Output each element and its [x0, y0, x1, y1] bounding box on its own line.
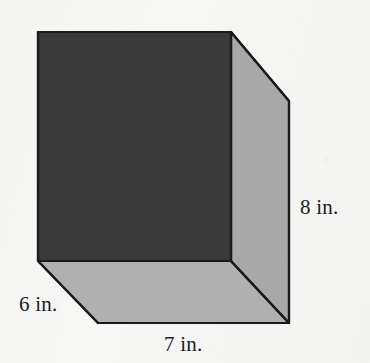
- front-face: [38, 32, 231, 261]
- width-dimension-label: 7 in.: [164, 334, 202, 355]
- figure-container: 8 in. 7 in. 6 in.: [0, 0, 370, 363]
- height-dimension-label: 8 in.: [300, 197, 338, 218]
- depth-dimension-label: 6 in.: [19, 294, 57, 315]
